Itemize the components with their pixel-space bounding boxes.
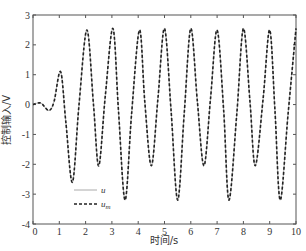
x-tick-label: 2 [83,226,88,237]
control-input-chart: 012345678910 -4-3-2-10123 u um 时间/s 控制输入… [0,0,306,251]
y-tick-label: -3 [22,189,30,200]
x-tick-label: 8 [241,226,246,237]
plot-frame [33,15,296,224]
plot-border [33,15,296,224]
y-axis: -4-3-2-10123 [22,10,296,230]
x-tick-label: 10 [291,226,301,237]
y-tick-label: 3 [25,10,30,21]
series-layer [33,28,296,200]
x-axis-label: 时间/s [150,234,179,246]
y-tick-label: 2 [25,39,30,50]
y-axis-label: 控制输入/V [0,95,12,145]
y-tick-label: -1 [22,129,30,140]
legend-label-um: um [101,199,111,211]
legend: u um [74,185,111,211]
x-tick-label: 9 [267,226,272,237]
x-tick-label: 1 [57,226,62,237]
y-tick-label: -2 [22,159,30,170]
y-tick-label: -4 [22,219,30,230]
series-u [33,28,296,200]
y-tick-label: 1 [25,69,30,80]
x-tick-label: 6 [188,226,193,237]
legend-label-u: u [101,185,106,195]
x-tick-label: 0 [33,226,38,237]
x-tick-label: 3 [109,226,114,237]
x-tick-label: 7 [215,226,220,237]
y-tick-label: 0 [25,99,30,110]
series-u-m [33,28,296,200]
x-tick-label: 4 [136,226,141,237]
